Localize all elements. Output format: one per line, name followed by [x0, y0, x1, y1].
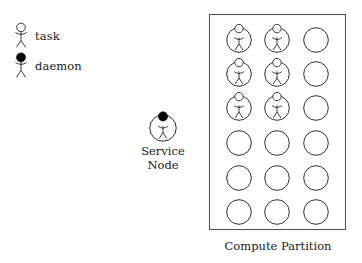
- node-r1c1[interactable]: [227, 24, 252, 52]
- node-r4c1[interactable]: [227, 131, 252, 156]
- node-r1c2[interactable]: [265, 24, 290, 52]
- node-r2c2[interactable]: [265, 58, 290, 86]
- node-r2c3[interactable]: [304, 62, 329, 87]
- legend-label-task: task: [35, 30, 60, 43]
- service-node-label-line2: Node: [133, 159, 193, 172]
- node-r1c3[interactable]: [304, 28, 329, 53]
- node-r4c3[interactable]: [304, 131, 329, 156]
- node-r3c2[interactable]: [265, 92, 290, 120]
- legend-label-daemon: daemon: [35, 60, 82, 73]
- node-r6c1[interactable]: [227, 200, 252, 225]
- node-r5c1[interactable]: [227, 166, 252, 191]
- node-r6c2[interactable]: [265, 200, 290, 225]
- node-r3c3[interactable]: [304, 96, 329, 121]
- node-r5c3[interactable]: [304, 166, 329, 191]
- diagram-canvas: task daemon Service Node Compute Partiti…: [0, 0, 362, 263]
- node-r3c1[interactable]: [227, 92, 252, 120]
- legend-icon-task: [15, 23, 26, 47]
- node-r2c1[interactable]: [227, 58, 252, 86]
- service-node-daemon-head: [158, 112, 167, 121]
- node-r6c3[interactable]: [304, 200, 329, 225]
- legend-icon-daemon: [15, 53, 26, 78]
- node-r5c2[interactable]: [265, 166, 290, 191]
- service-node-label-line1: Service: [133, 145, 193, 158]
- node-r4c2[interactable]: [265, 131, 290, 156]
- compute-partition-caption: Compute Partition: [209, 240, 347, 253]
- service-node-label: Service Node: [133, 145, 193, 171]
- service-node-glyph[interactable]: [150, 112, 176, 141]
